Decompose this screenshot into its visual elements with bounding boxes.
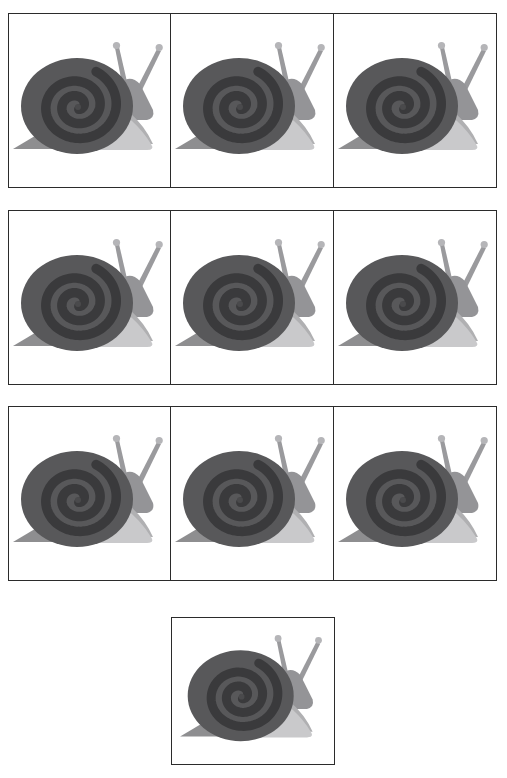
snail-cell[interactable]	[171, 211, 333, 384]
grid-row	[8, 13, 497, 188]
snail-antenna-right	[462, 49, 486, 90]
snail-antenna-tip-right	[318, 240, 325, 247]
snail-antenna-tip-left	[438, 41, 445, 48]
snail-antenna-tip-left	[438, 238, 445, 245]
snail-antenna-tip-right	[315, 637, 322, 644]
snail-antenna-right	[462, 442, 486, 483]
snail-antenna-tip-right	[318, 43, 325, 50]
snail-antenna-right	[137, 442, 161, 483]
snail-icon	[173, 223, 331, 373]
snail-shell-core	[75, 301, 81, 307]
snail-shell-core	[237, 301, 243, 307]
snail-antenna-right	[299, 442, 323, 483]
snail-icon	[178, 620, 328, 762]
snail-antenna-right	[137, 49, 161, 90]
snail-icon	[173, 26, 331, 176]
snail-cell[interactable]	[334, 211, 496, 384]
snail-antenna-tip-right	[480, 436, 487, 443]
snail-antenna-right	[297, 642, 320, 681]
snail-cell[interactable]	[171, 407, 333, 580]
snail-shell-core	[239, 694, 245, 700]
snail-antenna-tip-left	[113, 434, 120, 441]
snail-cell[interactable]	[9, 407, 171, 580]
snail-shell-core	[400, 301, 406, 307]
snail-antenna-right	[299, 49, 323, 90]
page-canvas	[0, 0, 507, 778]
snail-icon	[11, 26, 169, 176]
snail-antenna-tip-right	[318, 436, 325, 443]
snail-icon	[11, 419, 169, 569]
snail-cell[interactable]	[334, 14, 496, 187]
grid-row	[171, 617, 335, 765]
snail-antenna-right	[137, 246, 161, 287]
snail-antenna-tip-left	[275, 434, 282, 441]
snail-cell[interactable]	[9, 211, 171, 384]
grid-row	[8, 406, 497, 581]
snail-shell-core	[237, 497, 243, 503]
snail-cell[interactable]	[334, 407, 496, 580]
snail-antenna-tip-right	[155, 240, 162, 247]
snail-antenna-tip-left	[438, 434, 445, 441]
snail-antenna-right	[462, 246, 486, 287]
snail-antenna-tip-left	[275, 41, 282, 48]
snail-icon	[336, 26, 494, 176]
snail-icon	[173, 419, 331, 569]
snail-icon	[336, 419, 494, 569]
snail-icon	[336, 223, 494, 373]
snail-antenna-tip-right	[155, 436, 162, 443]
snail-shell-core	[237, 104, 243, 110]
snail-antenna-tip-left	[113, 238, 120, 245]
snail-antenna-tip-right	[480, 43, 487, 50]
snail-antenna-tip-left	[275, 635, 282, 642]
snail-icon	[11, 223, 169, 373]
snail-shell-core	[75, 104, 81, 110]
snail-cell[interactable]	[172, 618, 334, 764]
snail-shell-core	[400, 104, 406, 110]
snail-antenna-right	[299, 246, 323, 287]
snail-antenna-tip-left	[113, 41, 120, 48]
snail-antenna-tip-right	[480, 240, 487, 247]
grid-row	[8, 210, 497, 385]
snail-shell-core	[75, 497, 81, 503]
snail-antenna-tip-right	[155, 43, 162, 50]
snail-cell[interactable]	[171, 14, 333, 187]
snail-antenna-tip-left	[275, 238, 282, 245]
snail-cell[interactable]	[9, 14, 171, 187]
snail-shell-core	[400, 497, 406, 503]
